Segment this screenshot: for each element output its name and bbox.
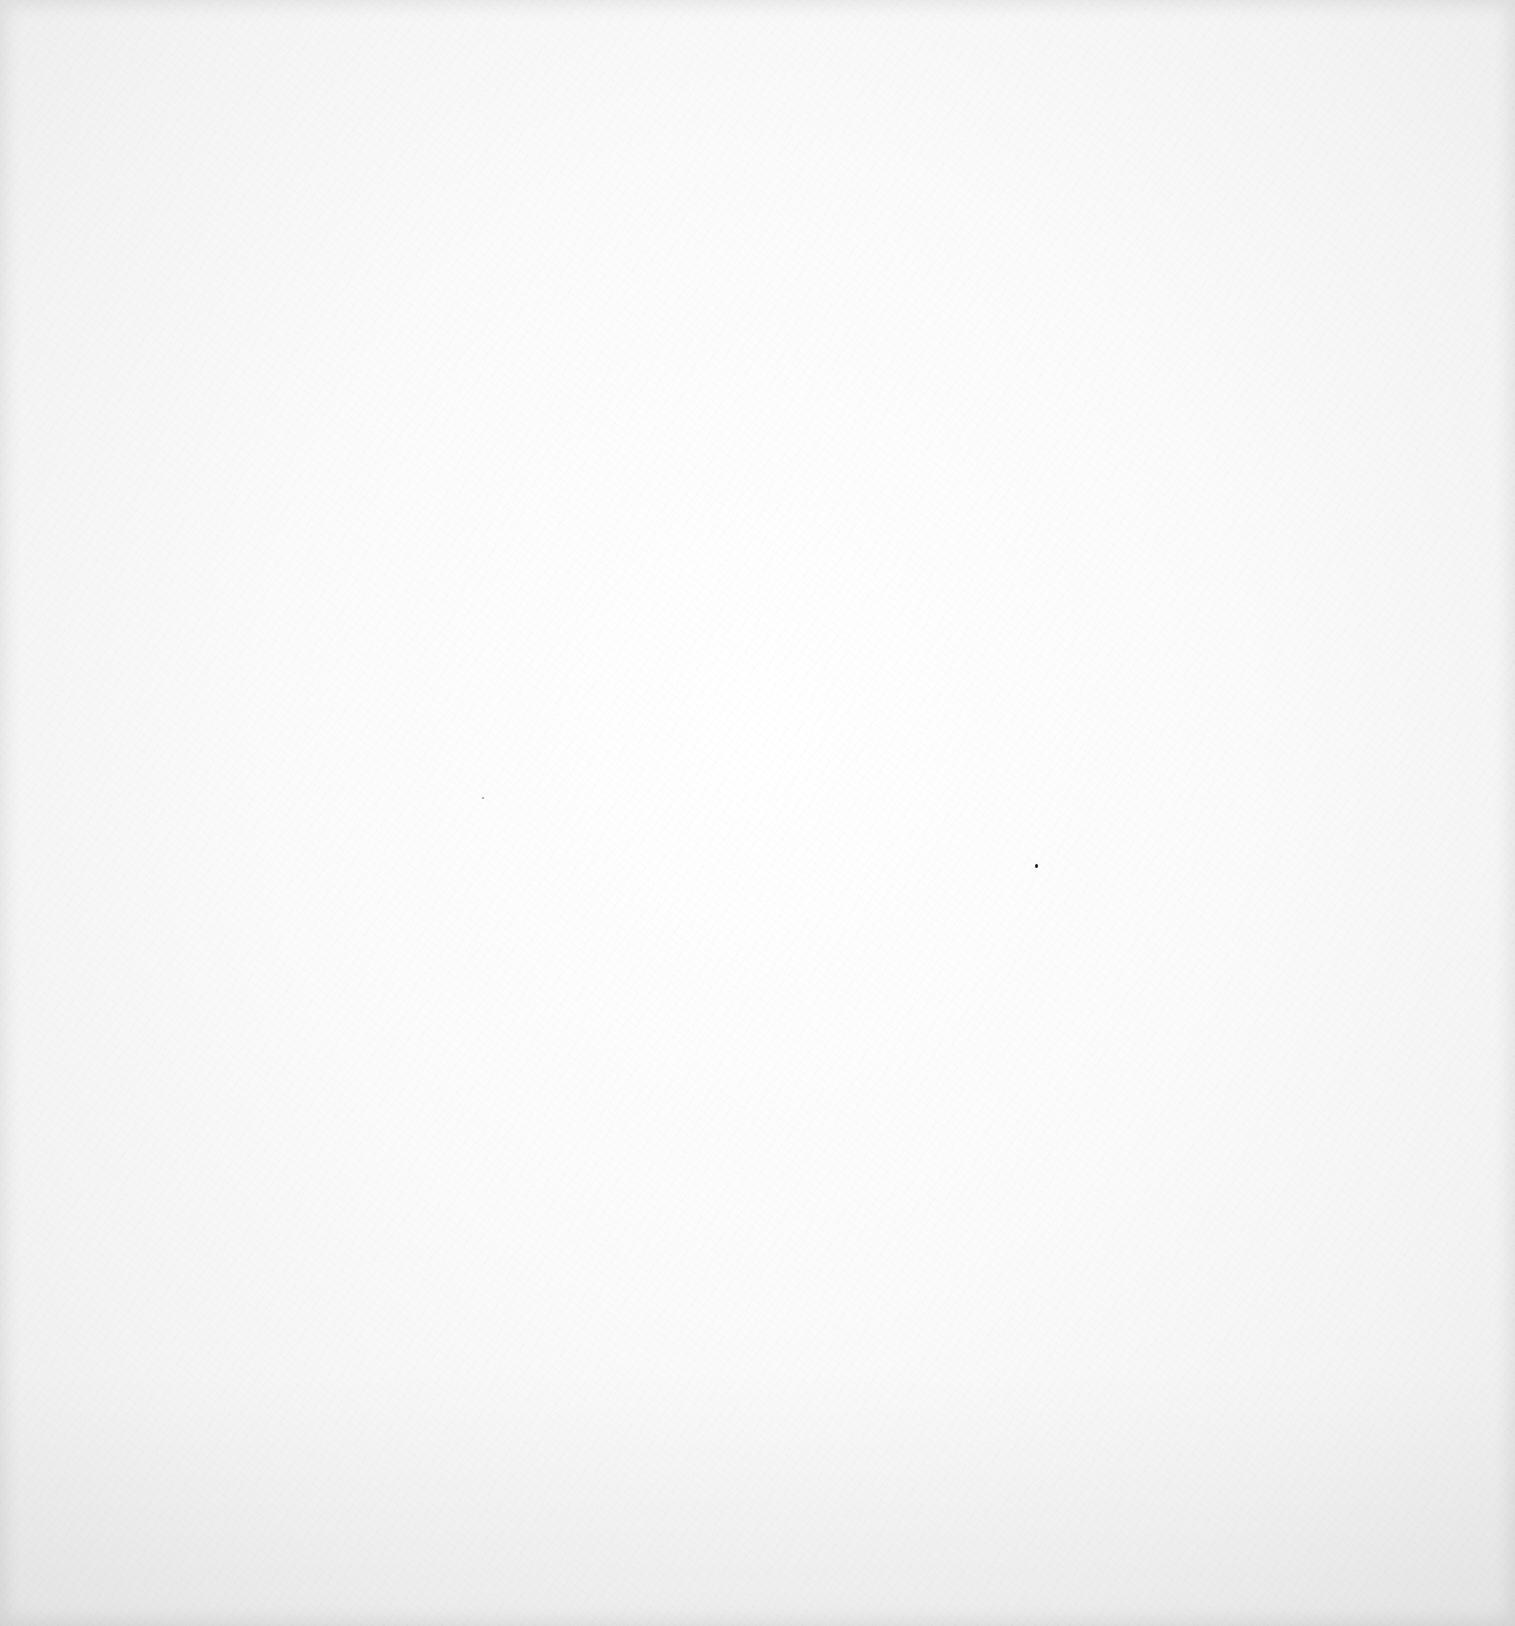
blank-paper-page (0, 0, 1515, 1626)
bottom-shading (0, 1366, 1515, 1626)
edge-vignette (0, 0, 1515, 1626)
dust-speck (1035, 864, 1038, 868)
faint-dust-speck (482, 797, 484, 799)
